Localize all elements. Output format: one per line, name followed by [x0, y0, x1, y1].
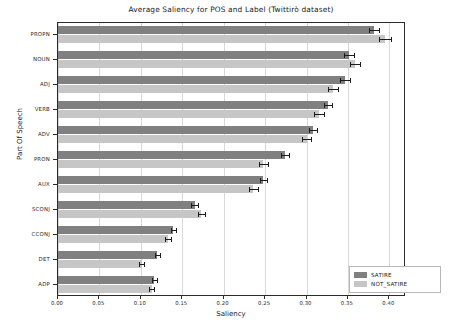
error-bar-cap — [165, 237, 166, 242]
y-axis-tick-label-adp: ADP — [4, 281, 50, 287]
x-axis-tick — [347, 296, 348, 299]
error-bar — [281, 155, 289, 156]
bar-group — [58, 101, 404, 119]
y-axis-tick — [53, 134, 57, 135]
error-bar-cap — [332, 103, 333, 108]
legend-swatch-icon — [354, 272, 367, 278]
bar-adp-not_satire — [58, 285, 152, 293]
x-axis-tick-label: 0.00 — [44, 300, 70, 306]
error-bar-cap — [155, 253, 156, 258]
error-bar-cap — [260, 178, 261, 183]
bar-adp-satire — [58, 276, 154, 284]
bar-cconj-not_satire — [58, 235, 168, 243]
error-bar-cap — [139, 262, 140, 267]
bar-sconj-satire — [58, 201, 195, 209]
y-axis-tick — [53, 234, 57, 235]
bar-group — [58, 76, 404, 94]
y-axis-tick — [53, 109, 57, 110]
error-bar-cap — [344, 53, 345, 58]
error-bar-cap — [268, 162, 269, 167]
y-axis-tick — [53, 184, 57, 185]
bar-pron-satire — [58, 151, 285, 159]
y-axis-tick — [53, 59, 57, 60]
error-bar-cap — [157, 278, 158, 283]
error-bar — [324, 105, 332, 106]
x-axis-tick — [223, 296, 224, 299]
y-axis-tick-label-pron: PRON — [4, 156, 50, 162]
plot-area — [57, 22, 405, 296]
x-axis-tick — [98, 296, 99, 299]
bar-propn-satire — [58, 26, 374, 34]
x-axis-tick — [264, 296, 265, 299]
error-bar — [259, 164, 267, 165]
error-bar — [344, 55, 354, 56]
error-bar — [350, 64, 360, 65]
x-axis-tick — [388, 296, 389, 299]
error-bar — [328, 89, 338, 90]
error-bar-cap — [317, 128, 318, 133]
bar-adv-not_satire — [58, 135, 307, 143]
y-axis-tick-label-det: DET — [4, 256, 50, 262]
x-axis-tick — [140, 296, 141, 299]
error-bar-cap — [149, 287, 150, 292]
error-bar — [314, 114, 324, 115]
y-axis-tick-label-noun: NOUN — [4, 56, 50, 62]
error-bar — [249, 189, 257, 190]
x-axis-tick-label: 0.25 — [251, 300, 277, 306]
y-axis-tick — [53, 84, 57, 85]
legend-item-satire[interactable]: SATIRE — [354, 271, 436, 279]
chart-title: Average Saliency for POS and Label (Twit… — [57, 5, 405, 14]
bar-sconj-not_satire — [58, 210, 201, 218]
bar-group — [58, 151, 404, 169]
x-axis-tick-label: 0.05 — [85, 300, 111, 306]
error-bar — [309, 130, 317, 131]
y-axis-label: Part Of Speech — [16, 94, 24, 174]
bar-group — [58, 51, 404, 69]
x-axis-tick-label: 0.15 — [168, 300, 194, 306]
error-bar-cap — [160, 253, 161, 258]
error-bar-cap — [354, 53, 355, 58]
y-axis-tick-label-cconj: CCONJ — [4, 231, 50, 237]
bar-group — [58, 126, 404, 144]
y-axis-tick-label-aux: AUX — [4, 181, 50, 187]
y-axis-tick — [53, 259, 57, 260]
chart-figure: Average Saliency for POS and Label (Twit… — [0, 0, 449, 330]
y-axis-tick-label-adj: ADJ — [4, 81, 50, 87]
y-axis-tick-label-verb: VERB — [4, 106, 50, 112]
x-axis-tick — [306, 296, 307, 299]
error-bar-cap — [144, 262, 145, 267]
error-bar-cap — [258, 187, 259, 192]
error-bar-cap — [267, 178, 268, 183]
bar-cconj-satire — [58, 226, 173, 234]
error-bar-cap — [281, 153, 282, 158]
y-axis-tick-label-sconj: SCONJ — [4, 206, 50, 212]
legend-swatch-icon — [354, 281, 367, 287]
error-bar-cap — [311, 137, 312, 142]
error-bar-cap — [171, 228, 172, 233]
error-bar — [340, 80, 350, 81]
error-bar-cap — [328, 87, 329, 92]
error-bar-cap — [379, 37, 380, 42]
error-bar — [302, 139, 310, 140]
x-axis-tick — [181, 296, 182, 299]
error-bar-cap — [259, 162, 260, 167]
x-axis-tick-label: 0.10 — [127, 300, 153, 306]
error-bar-cap — [198, 212, 199, 217]
bar-propn-not_satire — [58, 35, 385, 43]
error-bar-cap — [191, 203, 192, 208]
error-bar-cap — [391, 37, 392, 42]
x-axis-tick-label: 0.35 — [334, 300, 360, 306]
error-bar-cap — [249, 187, 250, 192]
legend-label: NOT_SATIRE — [371, 281, 407, 287]
bar-det-satire — [58, 251, 157, 259]
y-axis-tick — [53, 209, 57, 210]
error-bar-cap — [350, 78, 351, 83]
error-bar-cap — [154, 287, 155, 292]
error-bar — [369, 30, 379, 31]
error-bar-cap — [152, 278, 153, 283]
legend-item-not_satire[interactable]: NOT_SATIRE — [354, 280, 436, 288]
x-axis-tick — [57, 296, 58, 299]
bar-det-not_satire — [58, 260, 142, 268]
y-axis-tick-label-adv: ADV — [4, 131, 50, 137]
bar-group — [58, 176, 404, 194]
